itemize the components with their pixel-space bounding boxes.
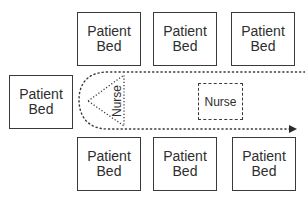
patient-bed-top-2: Patient Bed — [153, 12, 217, 66]
bed-label: Patient Bed — [241, 24, 285, 54]
bed-label: Patient Bed — [19, 87, 63, 117]
bed-label: Patient Bed — [87, 149, 131, 179]
arrow-head-icon — [289, 125, 297, 133]
patient-bed-bottom-3: Patient Bed — [232, 137, 296, 191]
nurse-triangle-label: Nurse — [110, 85, 124, 117]
patient-bed-top-3: Patient Bed — [231, 12, 295, 66]
bed-label: Patient Bed — [87, 24, 131, 54]
patient-bed-bottom-2: Patient Bed — [153, 137, 217, 191]
patient-bed-left: Patient Bed — [9, 75, 73, 129]
nurse-dashed-box: Nurse — [198, 83, 243, 120]
bed-label: Patient Bed — [163, 149, 207, 179]
bed-label: Patient Bed — [242, 149, 286, 179]
nurse-box-label: Nurse — [204, 95, 236, 109]
bed-label: Patient Bed — [163, 24, 207, 54]
patient-bed-top-1: Patient Bed — [77, 12, 141, 66]
patient-bed-bottom-1: Patient Bed — [77, 137, 141, 191]
